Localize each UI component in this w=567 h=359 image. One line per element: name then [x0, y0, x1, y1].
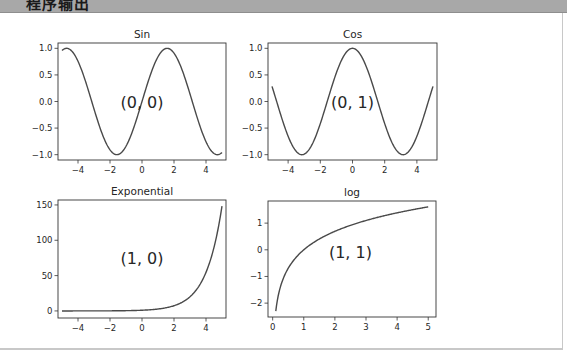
x-tick-label: 2 — [171, 165, 176, 175]
x-tick-label: 0 — [139, 165, 144, 175]
subplot-title: Exponential — [111, 185, 173, 197]
y-tick-label: −2 — [250, 298, 263, 308]
x-tick-label: 0 — [270, 322, 275, 332]
subplot-sin: −4−20241.00.50.0−0.5−1.0Sin(0, 0) — [32, 28, 226, 175]
x-tick-label: 1 — [301, 322, 306, 332]
figure-canvas: −4−20241.00.50.0−0.5−1.0Sin(0, 0)−4−2024… — [0, 0, 567, 359]
y-tick-label: 0 — [47, 306, 52, 316]
y-tick-label: 0 — [257, 245, 262, 255]
subplot-title: Sin — [134, 28, 150, 40]
y-tick-label: 150 — [36, 200, 52, 210]
x-tick-label: 4 — [394, 322, 399, 332]
y-tick-label: −0.5 — [242, 123, 263, 133]
subplot-title: Cos — [343, 28, 362, 40]
subplot-log: 01234510−1−2log(1, 1) — [250, 186, 436, 332]
y-tick-label: −0.5 — [32, 123, 53, 133]
y-tick-label: 0.5 — [39, 70, 53, 80]
y-tick-label: −1 — [250, 271, 263, 281]
y-tick-label: 1.0 — [39, 43, 53, 53]
x-tick-label: 0 — [139, 323, 144, 333]
x-tick-label: 4 — [203, 165, 208, 175]
subplot-exponential: −4−2024150100500Exponential(1, 0) — [36, 185, 226, 333]
y-tick-label: 50 — [42, 271, 53, 281]
subplot-annotation: (0, 0) — [120, 93, 163, 112]
subplot-title: log — [344, 186, 360, 198]
x-tick-label: 2 — [382, 165, 387, 175]
x-tick-label: 2 — [171, 323, 176, 333]
x-tick-label: 4 — [414, 165, 419, 175]
x-tick-label: 4 — [203, 323, 208, 333]
y-tick-label: 1 — [257, 218, 262, 228]
x-tick-label: 2 — [332, 322, 337, 332]
subplot-cos: −4−20241.00.50.0−0.5−1.0Cos(0, 1) — [242, 28, 437, 175]
y-tick-label: 1.0 — [249, 43, 263, 53]
x-tick-label: −2 — [104, 323, 117, 333]
x-tick-label: −2 — [314, 165, 327, 175]
y-tick-label: −1.0 — [32, 150, 53, 160]
subplot-annotation: (0, 1) — [331, 93, 374, 112]
x-tick-label: −2 — [104, 165, 117, 175]
x-tick-label: 5 — [426, 322, 431, 332]
subplot-annotation: (1, 0) — [120, 249, 163, 268]
x-tick-label: −4 — [72, 165, 85, 175]
y-tick-label: 0.0 — [249, 97, 263, 107]
y-tick-label: 100 — [36, 235, 52, 245]
y-tick-label: −1.0 — [242, 150, 263, 160]
y-tick-label: 0.0 — [39, 97, 53, 107]
x-tick-label: −4 — [282, 165, 295, 175]
x-tick-label: −4 — [72, 323, 85, 333]
subplot-annotation: (1, 1) — [329, 243, 372, 262]
x-tick-label: 0 — [350, 165, 355, 175]
y-tick-label: 0.5 — [249, 70, 263, 80]
x-tick-label: 3 — [363, 322, 368, 332]
